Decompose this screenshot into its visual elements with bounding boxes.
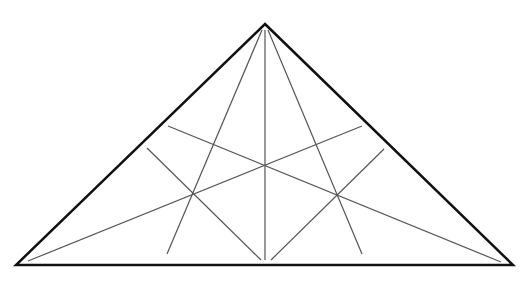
- background: [0, 0, 527, 286]
- geometry-diagram: [0, 0, 527, 286]
